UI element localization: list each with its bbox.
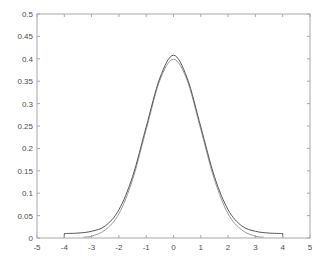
x-tick-label: 4 — [280, 243, 285, 252]
y-tick-label: 0.4 — [22, 55, 34, 64]
x-tick-label: 3 — [253, 243, 258, 252]
y-tick-label: 0.05 — [17, 212, 33, 221]
x-tick-label: 2 — [226, 243, 231, 252]
x-tick-label: -4 — [61, 243, 69, 252]
y-tick-label: 0.3 — [22, 100, 34, 109]
y-tick-label: 0.15 — [17, 167, 33, 176]
x-tick-label: -5 — [33, 243, 41, 252]
x-tick-label: 0 — [171, 243, 176, 252]
x-tick-label: -1 — [143, 243, 151, 252]
y-tick-label: 0.1 — [22, 189, 34, 198]
plot-area — [37, 14, 310, 238]
y-tick-label: 0.25 — [17, 122, 33, 131]
y-tick-label: 0.5 — [22, 10, 34, 19]
y-tick-label: 0.45 — [17, 32, 33, 41]
chart: -5-4-3-2-1012345 00.050.10.150.20.250.30… — [0, 0, 327, 266]
y-tick-label: 0.35 — [17, 77, 33, 86]
x-tick-label: 5 — [308, 243, 313, 252]
axes-background — [37, 14, 310, 238]
x-tick-label: 1 — [199, 243, 204, 252]
x-tick-label: -2 — [115, 243, 123, 252]
x-tick-label: -3 — [88, 243, 96, 252]
y-tick-label: 0 — [29, 234, 34, 243]
y-tick-label: 0.2 — [22, 144, 34, 153]
